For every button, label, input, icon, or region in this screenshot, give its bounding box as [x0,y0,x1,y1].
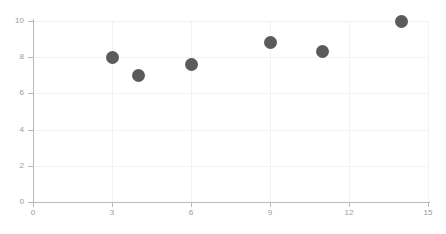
y-axis-label: 10 [0,17,24,25]
gridline-horizontal [33,57,428,58]
x-axis-label: 15 [413,209,443,217]
x-axis-label: 0 [18,209,48,217]
y-axis-label: 2 [0,162,24,170]
y-axis-label: 6 [0,89,24,97]
y-axis-tick [28,93,33,94]
x-axis-tick [349,202,350,207]
x-axis-label: 12 [334,209,364,217]
y-axis-label: 0 [0,198,24,206]
gridline-horizontal [33,21,428,22]
y-axis-label: 4 [0,126,24,134]
gridline-vertical [112,21,113,202]
y-axis-tick [28,57,33,58]
data-point[interactable] [264,36,277,49]
y-axis-tick [28,130,33,131]
data-point[interactable] [395,15,408,28]
x-axis-tick [33,202,34,207]
y-axis-tick [28,21,33,22]
gridline-vertical [191,21,192,202]
x-axis-tick [270,202,271,207]
x-axis-label: 6 [176,209,206,217]
gridline-horizontal [33,166,428,167]
data-point[interactable] [106,51,119,64]
plot-area [33,21,428,202]
x-axis-tick [428,202,429,207]
gridline-horizontal [33,130,428,131]
x-axis-label: 9 [255,209,285,217]
gridline-horizontal [33,93,428,94]
x-axis-line [31,202,430,203]
gridline-vertical [428,21,429,202]
y-axis-tick [28,166,33,167]
x-axis-tick [191,202,192,207]
y-axis-label: 8 [0,53,24,61]
data-point[interactable] [185,58,198,71]
y-axis-line [33,19,34,204]
x-axis-tick [112,202,113,207]
data-point[interactable] [132,69,145,82]
scatter-chart: 024681003691215 [0,0,446,234]
x-axis-label: 3 [97,209,127,217]
gridline-vertical [349,21,350,202]
